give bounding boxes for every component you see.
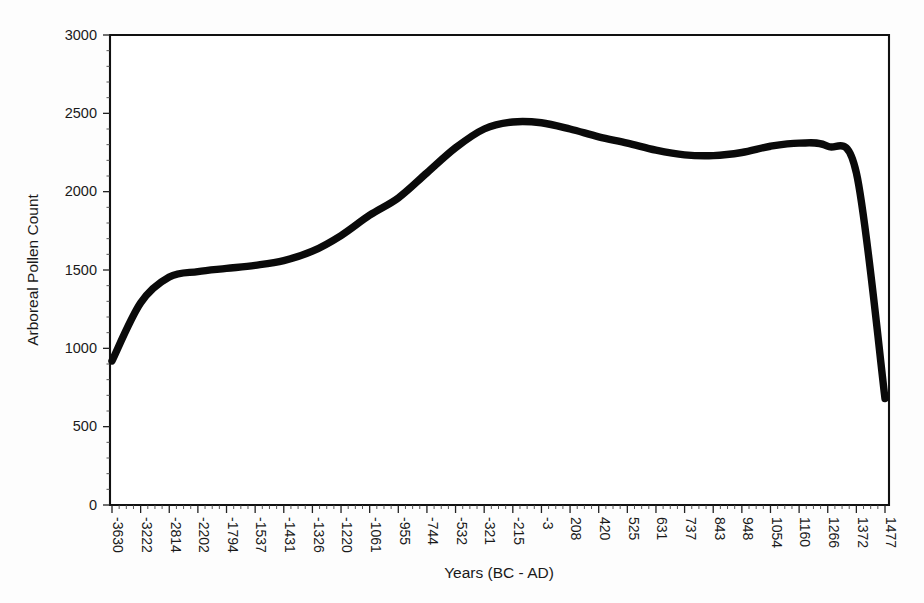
x-tick-label: -1061 bbox=[368, 517, 384, 553]
x-tick-label: 737 bbox=[683, 517, 699, 541]
y-axis-title: Arboreal Pollen Count bbox=[24, 193, 41, 345]
x-tick-label: -3 bbox=[540, 517, 556, 530]
x-tick-label: 1372 bbox=[855, 517, 871, 548]
x-tick-label: -215 bbox=[511, 517, 527, 545]
x-tick-label: -1220 bbox=[339, 517, 355, 553]
y-tick-label: 500 bbox=[73, 418, 97, 434]
y-axis: 050010001500200025003000 bbox=[65, 27, 110, 513]
x-axis-ticks bbox=[112, 505, 885, 513]
pollen-count-chart-figure: 050010001500200025003000 -3630-3222-2814… bbox=[0, 0, 924, 603]
x-tick-label: -1431 bbox=[282, 517, 298, 553]
x-axis-labels: -3630-3222-2814-2202-1794-1537-1431-1326… bbox=[110, 517, 899, 553]
x-tick-label: -3222 bbox=[139, 517, 155, 553]
y-tick-label: 0 bbox=[89, 497, 97, 513]
x-tick-label: -1537 bbox=[253, 517, 269, 553]
y-tick-label: 2500 bbox=[65, 105, 97, 121]
chart-canvas: 050010001500200025003000 -3630-3222-2814… bbox=[0, 0, 924, 603]
x-tick-label: -2814 bbox=[168, 517, 184, 553]
y-tick-label: 2000 bbox=[65, 183, 97, 199]
x-tick-label: -1326 bbox=[311, 517, 327, 553]
x-tick-label: 420 bbox=[597, 517, 613, 541]
x-tick-label: 525 bbox=[626, 517, 642, 541]
y-tick-label: 1000 bbox=[65, 340, 97, 356]
x-tick-label: -321 bbox=[482, 517, 498, 545]
x-tick-label: 208 bbox=[568, 517, 584, 541]
x-tick-label: -744 bbox=[425, 517, 441, 545]
x-tick-label: 1477 bbox=[883, 517, 899, 548]
x-tick-label: -532 bbox=[454, 517, 470, 545]
x-axis-title: Years (BC - AD) bbox=[444, 564, 554, 581]
x-tick-label: -3630 bbox=[110, 517, 126, 553]
x-tick-label: 1266 bbox=[826, 517, 842, 548]
y-tick-label: 3000 bbox=[65, 27, 97, 43]
x-tick-label: 843 bbox=[712, 517, 728, 541]
x-tick-label: 1160 bbox=[797, 517, 813, 547]
x-tick-label: -1794 bbox=[225, 517, 241, 553]
x-tick-label: 948 bbox=[740, 517, 756, 541]
y-tick-label: 1500 bbox=[65, 262, 97, 278]
x-tick-label: -955 bbox=[397, 517, 413, 545]
x-tick-label: 631 bbox=[654, 517, 670, 541]
x-tick-label: -2202 bbox=[196, 517, 212, 553]
x-tick-label: 1054 bbox=[769, 517, 785, 548]
